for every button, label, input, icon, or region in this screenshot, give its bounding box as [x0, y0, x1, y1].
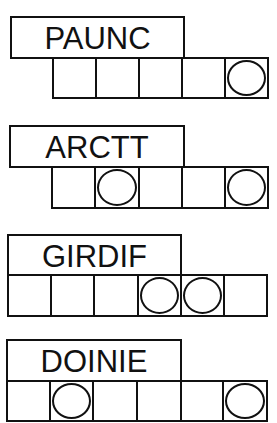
answer-cells — [6, 380, 268, 422]
answer-cell-3[interactable] — [94, 382, 138, 420]
answer-cell-3[interactable] — [140, 168, 183, 207]
circle-marker-icon — [183, 277, 222, 314]
circle-marker-icon — [227, 60, 266, 96]
answer-cell-1[interactable] — [8, 382, 51, 420]
circle-marker-icon — [140, 277, 179, 314]
answer-cell-1[interactable] — [53, 168, 96, 207]
answer-cell-2[interactable] — [97, 59, 140, 97]
circle-marker-icon — [227, 169, 266, 206]
answer-cell-1[interactable] — [9, 276, 52, 315]
answer-cells — [7, 274, 268, 317]
circle-marker-icon — [52, 383, 91, 419]
answer-cell-3[interactable] — [95, 276, 139, 315]
answer-cell-5-circled[interactable] — [182, 276, 225, 315]
scrambled-word-box: DOINIE — [6, 339, 182, 382]
answer-cell-1[interactable] — [54, 59, 97, 97]
answer-cell-6[interactable] — [225, 276, 268, 315]
circle-marker-icon — [225, 383, 265, 419]
answer-cell-4[interactable] — [183, 168, 226, 207]
answer-cells — [52, 57, 269, 99]
answer-cell-5-circled[interactable] — [226, 168, 269, 207]
scrambled-word-box: PAUNC — [10, 16, 185, 59]
answer-cell-2-circled[interactable] — [96, 168, 140, 207]
answer-cells — [51, 166, 269, 209]
answer-cell-5[interactable] — [182, 382, 224, 420]
answer-cell-4[interactable] — [138, 382, 182, 420]
answer-cell-2-circled[interactable] — [51, 382, 94, 420]
answer-cell-4-circled[interactable] — [139, 276, 182, 315]
scrambled-word-box: ARCTT — [9, 125, 185, 168]
answer-cell-4[interactable] — [183, 59, 226, 97]
scrambled-word: DOINIE — [41, 344, 148, 377]
scrambled-word: PAUNC — [44, 21, 150, 54]
answer-cell-2[interactable] — [52, 276, 95, 315]
scrambled-word: ARCTT — [45, 130, 148, 163]
answer-cell-3[interactable] — [140, 59, 183, 97]
scrambled-word: GIRDIF — [42, 239, 147, 272]
answer-cell-5-circled[interactable] — [226, 59, 269, 97]
circle-marker-icon — [97, 169, 137, 206]
answer-cell-6-circled[interactable] — [224, 382, 268, 420]
scrambled-word-box: GIRDIF — [7, 234, 182, 276]
